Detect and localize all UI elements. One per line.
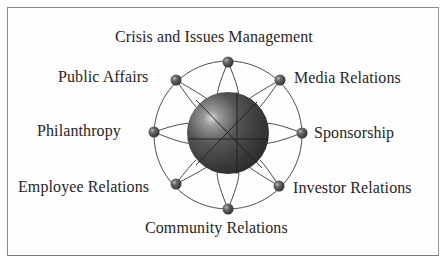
- node-ball-crisis: [223, 57, 234, 68]
- node-ball-sponsorship: [297, 128, 308, 139]
- node-ball-philanthropy: [149, 127, 160, 138]
- node-ball-media: [275, 75, 286, 86]
- label-philanthropy: Philanthropy: [37, 122, 121, 140]
- label-community-relations: Community Relations: [145, 219, 288, 237]
- node-ball-investor: [274, 181, 285, 192]
- label-public-affairs: Public Affairs: [58, 68, 148, 86]
- label-sponsorship: Sponsorship: [314, 124, 394, 142]
- node-ball-community: [223, 204, 234, 215]
- label-employee-relations: Employee Relations: [18, 178, 149, 196]
- node-ball-public: [171, 75, 182, 86]
- label-crisis-issues-management: Crisis and Issues Management: [115, 28, 313, 46]
- label-investor-relations: Investor Relations: [293, 179, 412, 197]
- label-media-relations: Media Relations: [294, 69, 401, 87]
- node-ball-employee: [171, 179, 182, 190]
